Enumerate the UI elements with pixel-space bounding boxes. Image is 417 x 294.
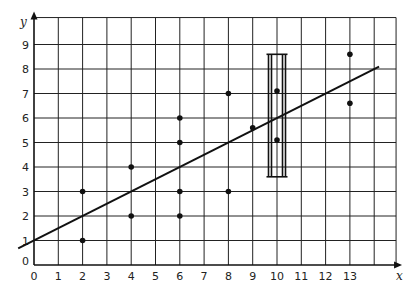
x-tick-label: 8 (225, 270, 232, 283)
x-tick-label: 3 (103, 270, 110, 283)
x-tick-label: 7 (201, 270, 208, 283)
y-tick-label: 8 (22, 63, 29, 76)
y-tick-label: 6 (22, 112, 29, 125)
x-tick-labels: 012345678910111213 (31, 270, 357, 283)
axes (31, 12, 403, 269)
data-point (274, 137, 280, 143)
y-tick-label: 3 (22, 186, 29, 199)
x-tick-label: 11 (294, 270, 308, 283)
x-tick-label: 2 (79, 270, 86, 283)
x-tick-label: 0 (31, 270, 38, 283)
y-tick-label: 7 (22, 88, 29, 101)
x-tick-label: 6 (176, 270, 183, 283)
y-tick-label: 9 (22, 39, 29, 52)
chart-canvas: 012345678910111213 0123456789 x y (0, 0, 417, 294)
data-point (347, 52, 353, 58)
data-point (226, 91, 232, 97)
data-point (80, 238, 86, 244)
y-tick-label: 5 (22, 137, 29, 150)
y-tick-label: 4 (22, 161, 29, 174)
y-axis-arrow-icon (31, 12, 38, 20)
grid-lines (34, 18, 396, 265)
data-points (80, 52, 353, 244)
x-tick-label: 1 (55, 270, 62, 283)
data-point (128, 213, 134, 219)
data-point (274, 88, 280, 94)
x-tick-label: 4 (128, 270, 135, 283)
y-tick-labels: 0123456789 (22, 39, 29, 269)
y-tick-label: 2 (22, 210, 29, 223)
data-point (177, 189, 183, 195)
x-tick-label: 9 (249, 270, 256, 283)
x-tick-label: 10 (270, 270, 284, 283)
y-tick-label: 0 (22, 255, 29, 268)
x-tick-label: 13 (343, 270, 357, 283)
x-axis-arrow-icon (394, 262, 402, 269)
data-point (80, 189, 86, 195)
data-point (250, 125, 256, 131)
x-axis-label: x (396, 269, 403, 283)
data-point (177, 213, 183, 219)
data-point (128, 164, 134, 170)
data-point (177, 115, 183, 121)
x-tick-label: 5 (152, 270, 159, 283)
data-point (177, 140, 183, 146)
scatter-chart: 012345678910111213 0123456789 x y (0, 0, 417, 294)
data-point (347, 101, 353, 107)
x-tick-label: 12 (319, 270, 333, 283)
data-point (226, 189, 232, 195)
y-axis-label: y (19, 15, 27, 29)
